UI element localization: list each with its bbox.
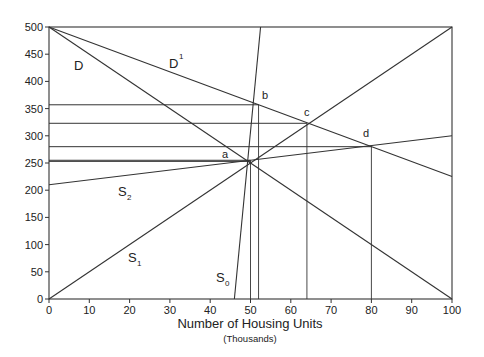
point-label-a: a bbox=[222, 148, 229, 160]
y-tick-label: 450 bbox=[25, 48, 43, 60]
y-tick-label: 150 bbox=[25, 211, 43, 223]
label-S1-sub: 1 bbox=[137, 259, 142, 268]
x-tick-label: 70 bbox=[325, 304, 337, 316]
label-S0: S bbox=[216, 270, 225, 285]
label-S2: S bbox=[118, 184, 127, 199]
y-tick-label: 250 bbox=[25, 157, 43, 169]
reference-lines bbox=[49, 105, 371, 299]
label-S2-sub: 2 bbox=[127, 193, 132, 202]
y-tick-label: 0 bbox=[37, 293, 43, 305]
x-tick-label: 40 bbox=[204, 304, 216, 316]
x-tick-label: 100 bbox=[443, 304, 461, 316]
x-tick-label: 50 bbox=[244, 304, 256, 316]
housing-supply-demand-chart: 0501001502002503003504004505000102030405… bbox=[0, 0, 484, 357]
y-tick-label: 350 bbox=[25, 103, 43, 115]
y-tick-label: 400 bbox=[25, 75, 43, 87]
x-axis-subtitle: (Thousands) bbox=[223, 333, 276, 344]
x-axis-title: Number of Housing Units bbox=[177, 316, 323, 331]
point-label-d: d bbox=[363, 127, 369, 139]
x-tick-label: 90 bbox=[406, 304, 418, 316]
x-tick-label: 10 bbox=[83, 304, 95, 316]
label-D: D bbox=[74, 58, 83, 73]
x-tick-label: 80 bbox=[365, 304, 377, 316]
label-S0-sub: 0 bbox=[225, 279, 230, 288]
y-tick-label: 300 bbox=[25, 130, 43, 142]
line-d1 bbox=[49, 27, 452, 177]
x-tick-label: 0 bbox=[46, 304, 52, 316]
label-D1: D bbox=[169, 56, 178, 71]
y-tick-label: 100 bbox=[25, 239, 43, 251]
y-tick-label: 50 bbox=[31, 266, 43, 278]
point-label-b: b bbox=[262, 89, 268, 101]
point-label-c: c bbox=[304, 106, 310, 118]
label-D1-sup: 1 bbox=[179, 52, 184, 61]
label-S1: S bbox=[128, 250, 137, 265]
line-s0 bbox=[234, 27, 260, 299]
x-tick-label: 20 bbox=[123, 304, 135, 316]
y-tick-label: 500 bbox=[25, 21, 43, 33]
y-tick-label: 200 bbox=[25, 184, 43, 196]
x-tick-label: 60 bbox=[285, 304, 297, 316]
x-tick-label: 30 bbox=[164, 304, 176, 316]
